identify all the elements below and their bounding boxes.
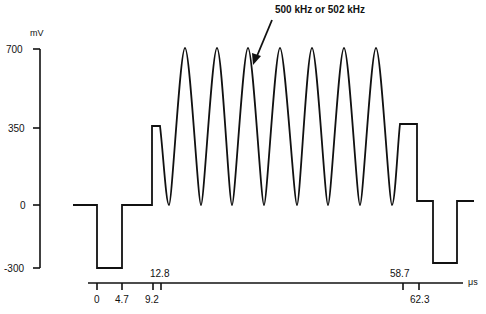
y-tick-label-0: 0 bbox=[20, 200, 26, 211]
time-axis bbox=[88, 283, 463, 290]
y-axis-unit: mV bbox=[30, 28, 44, 38]
time-axis-unit: μs bbox=[468, 277, 478, 287]
annotation-arrow bbox=[252, 20, 272, 65]
time-tick-label-9-2: 9.2 bbox=[145, 294, 159, 305]
time-tick-label-62-3: 62.3 bbox=[410, 294, 430, 305]
time-tick-label-58-7: 58.7 bbox=[390, 268, 410, 279]
time-tick-label-0: 0 bbox=[94, 294, 100, 305]
frequency-annotation: 500 kHz or 502 kHz bbox=[275, 4, 365, 15]
y-tick-label-700: 700 bbox=[6, 44, 23, 55]
time-tick-label-4-7: 4.7 bbox=[115, 294, 129, 305]
time-tick-label-12-8: 12.8 bbox=[150, 268, 170, 279]
waveform-diagram: mV 700 350 0 -300 500 kHz or 502 kHz 0 4… bbox=[0, 0, 486, 314]
waveform-trace bbox=[73, 48, 474, 268]
y-axis bbox=[33, 49, 40, 268]
y-tick-label-neg300: -300 bbox=[4, 263, 24, 274]
y-tick-label-350: 350 bbox=[8, 123, 25, 134]
